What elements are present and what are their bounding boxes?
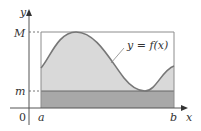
min-label: m bbox=[15, 85, 25, 98]
y-axis-label: y bbox=[19, 6, 27, 19]
x-axis-label: x bbox=[186, 111, 193, 124]
min-rectangle bbox=[41, 91, 174, 108]
b-label: b bbox=[170, 111, 177, 124]
y-axis-arrow-icon bbox=[26, 9, 32, 16]
mean-value-diagram: y M m 0 a b x y = f(x) bbox=[0, 0, 201, 131]
origin-label: 0 bbox=[19, 111, 26, 124]
curve-label: y = f(x) bbox=[126, 39, 168, 52]
max-label: M bbox=[13, 27, 26, 40]
curve-label-leader bbox=[111, 48, 124, 63]
a-label: a bbox=[38, 111, 45, 124]
